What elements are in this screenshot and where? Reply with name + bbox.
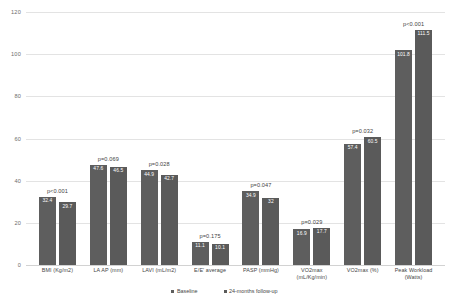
bar-slot: 47.6: [90, 12, 107, 265]
bar-value-label: 34.9: [242, 193, 259, 198]
legend-swatch-icon: [171, 290, 174, 293]
bar[interactable]: 111.5: [415, 30, 432, 265]
bar-slot: 60.5: [364, 12, 381, 265]
bar-value-label: 10.1: [212, 245, 229, 250]
bar[interactable]: 46.5: [110, 167, 127, 265]
bar-group: 34.932p=0.047: [236, 12, 287, 265]
p-value-annotation: p=0.069: [98, 156, 119, 162]
y-axis-tick-label: 0: [18, 262, 21, 268]
p-value-annotation: p=0.032: [352, 128, 373, 134]
bar-slot: 11.1: [192, 12, 209, 265]
bar[interactable]: 10.1: [212, 244, 229, 265]
p-value-annotation: p=0.047: [250, 182, 271, 188]
bar-value-label: 60.5: [364, 139, 381, 144]
bar-group: 32.429.7p<0.001: [32, 12, 83, 265]
bar-value-label: 32.4: [39, 198, 56, 203]
y-axis: 020406080100120: [0, 12, 24, 265]
bar-slot: 44.9: [141, 12, 158, 265]
bar-slot: 32: [262, 12, 279, 265]
bar-value-label: 11.1: [192, 243, 209, 248]
bar[interactable]: 44.9: [141, 170, 158, 265]
bar-slot: 46.5: [110, 12, 127, 265]
p-value-annotation: p<0.001: [47, 188, 68, 194]
bar-slot: 29.7: [59, 12, 76, 265]
bar-group: 11.110.1p=0.175: [185, 12, 236, 265]
legend-item[interactable]: 24-months follow-up: [224, 288, 278, 294]
bar-value-label: 46.5: [110, 168, 127, 173]
y-axis-tick-label: 60: [14, 136, 21, 142]
bar-value-label: 16.9: [293, 231, 310, 236]
gridline: [26, 265, 445, 266]
bar[interactable]: 42.7: [161, 175, 178, 265]
bar-slot: 32.4: [39, 12, 56, 265]
bar-slot: 101.8: [395, 12, 412, 265]
bar-value-label: 32: [262, 199, 279, 204]
bar-group: 44.942.7p=0.028: [134, 12, 185, 265]
bar-value-label: 57.4: [344, 145, 361, 150]
bar-slot: 42.7: [161, 12, 178, 265]
bar-value-label: 101.8: [395, 52, 412, 57]
bar[interactable]: 60.5: [364, 137, 381, 265]
p-value-annotation: p=0.029: [301, 219, 322, 225]
bar[interactable]: 11.1: [192, 242, 209, 265]
y-axis-tick-label: 40: [14, 178, 21, 184]
bar-group: 47.646.5p=0.069: [83, 12, 134, 265]
bar-groups: 32.429.7p<0.00147.646.5p=0.06944.942.7p=…: [26, 12, 445, 265]
bar-slot: 34.9: [242, 12, 259, 265]
bar-group: 101.8111.5p<0.001: [388, 12, 439, 265]
bar-slot: 10.1: [212, 12, 229, 265]
bar[interactable]: 101.8: [395, 50, 412, 265]
p-value-annotation: p<0.001: [403, 21, 424, 27]
p-value-annotation: p=0.175: [200, 233, 221, 239]
bar[interactable]: 47.6: [90, 165, 107, 265]
bar-value-label: 44.9: [141, 172, 158, 177]
y-axis-tick-label: 120: [11, 9, 21, 15]
bar[interactable]: 34.9: [242, 191, 259, 265]
bar[interactable]: 32: [262, 198, 279, 265]
bar[interactable]: 32.4: [39, 197, 56, 265]
legend-swatch-icon: [224, 290, 227, 293]
legend-label: Baseline: [177, 288, 198, 294]
bar[interactable]: 29.7: [59, 202, 76, 265]
bar-value-label: 47.6: [90, 166, 107, 171]
bar-group: 16.917.7p=0.029: [286, 12, 337, 265]
bar-value-label: 42.7: [161, 176, 178, 181]
legend-item[interactable]: Baseline: [171, 288, 197, 294]
bar-value-label: 17.7: [313, 229, 330, 234]
bar[interactable]: 16.9: [293, 229, 310, 265]
plot-area: 32.429.7p<0.00147.646.5p=0.06944.942.7p=…: [26, 12, 445, 265]
bar-group: 57.460.5p=0.032: [337, 12, 388, 265]
bar-slot: 16.9: [293, 12, 310, 265]
y-axis-tick-label: 20: [14, 220, 21, 226]
y-axis-tick-label: 100: [11, 51, 21, 57]
bar-chart: 020406080100120 32.429.7p<0.00147.646.5p…: [0, 0, 449, 305]
bar-value-label: 29.7: [59, 204, 76, 209]
bar[interactable]: 57.4: [344, 144, 361, 265]
bar-slot: 111.5: [415, 12, 432, 265]
bar-value-label: 111.5: [415, 31, 432, 36]
chart-legend: Baseline24-months follow-up: [0, 288, 449, 294]
bar-slot: 17.7: [313, 12, 330, 265]
bar[interactable]: 17.7: [313, 228, 330, 265]
legend-label: 24-months follow-up: [229, 288, 278, 294]
y-axis-tick-label: 80: [14, 93, 21, 99]
p-value-annotation: p=0.028: [149, 161, 170, 167]
bar-slot: 57.4: [344, 12, 361, 265]
